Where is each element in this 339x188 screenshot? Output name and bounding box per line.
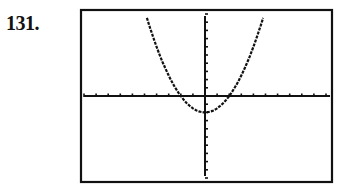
calculator-graph-screen — [0, 0, 339, 188]
axes — [84, 14, 330, 178]
